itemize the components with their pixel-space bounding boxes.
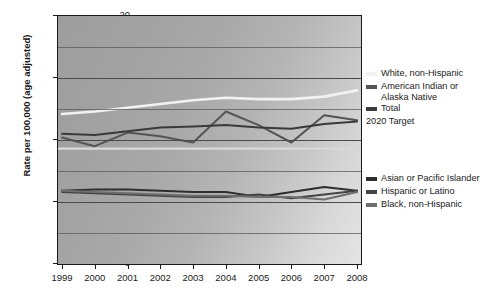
- gridline: [58, 171, 361, 172]
- gridline: [58, 233, 361, 234]
- legend-item-label: Black, non-Hispanic: [381, 199, 462, 210]
- legend-swatch: [366, 72, 377, 76]
- legend-swatch: [366, 203, 377, 207]
- x-tick-label: 2005: [242, 272, 276, 283]
- legend-swatch: [366, 190, 377, 194]
- legend-lower: Asian or Pacific IslanderHispanic or Lat…: [366, 173, 494, 212]
- x-tick-label: 2004: [209, 272, 243, 283]
- legend-swatch: [366, 107, 377, 111]
- x-tick-label: 1999: [45, 272, 79, 283]
- x-tick-mark: [357, 264, 358, 269]
- x-tick-mark: [324, 264, 325, 269]
- y-axis-label: Rate per 100,000 (age adjusted): [21, 0, 32, 216]
- gridline: [58, 109, 361, 110]
- legend-swatch: [366, 85, 377, 89]
- x-tick-mark: [62, 264, 63, 269]
- x-tick-label: 2008: [340, 272, 374, 283]
- legend-item: Asian or Pacific Islander: [366, 173, 494, 185]
- legend-item-2020-target: 2020 Target: [366, 116, 494, 127]
- x-tick-mark: [160, 264, 161, 269]
- legend-swatch: [366, 177, 377, 181]
- x-tick-label: 2000: [78, 272, 112, 283]
- x-tick-label: 2007: [307, 272, 341, 283]
- legend-item-label: Hispanic or Latino: [381, 186, 455, 197]
- x-tick-label: 2002: [143, 272, 177, 283]
- x-tick-mark: [291, 264, 292, 269]
- legend-item: White, non-Hispanic: [366, 68, 494, 80]
- legend-upper: White, non-HispanicAmerican Indian or Al…: [366, 68, 494, 127]
- x-tick-mark: [259, 264, 260, 269]
- legend-item-label: American Indian or Alaska Native: [381, 81, 458, 102]
- legend-item: Total: [366, 103, 494, 115]
- gridline: [58, 140, 361, 141]
- x-tick-mark: [128, 264, 129, 269]
- legend-item-label: Asian or Pacific Islander: [381, 173, 480, 184]
- x-tick-mark: [193, 264, 194, 269]
- legend-item: American Indian or Alaska Native: [366, 81, 494, 102]
- plot-area: [57, 15, 362, 265]
- line-chart-figure: Rate per 100,000 (age adjusted) 05101520…: [0, 0, 495, 296]
- x-tick-label: 2001: [111, 272, 145, 283]
- legend-item-label: White, non-Hispanic: [381, 68, 463, 79]
- legend-item: Black, non-Hispanic: [366, 199, 494, 211]
- gridline: [58, 47, 361, 48]
- legend-item-label: Total: [381, 103, 400, 114]
- plot-area-wrapper: 1999200020012002200320042005200620072008: [57, 15, 362, 265]
- x-tick-label: 2003: [176, 272, 210, 283]
- x-tick-mark: [226, 264, 227, 269]
- x-tick-label: 2006: [274, 272, 308, 283]
- gridline: [58, 202, 361, 203]
- legend-item: Hispanic or Latino: [366, 186, 494, 198]
- gridline: [58, 78, 361, 79]
- x-tick-mark: [95, 264, 96, 269]
- series-line-white-non-hispanic: [62, 90, 357, 114]
